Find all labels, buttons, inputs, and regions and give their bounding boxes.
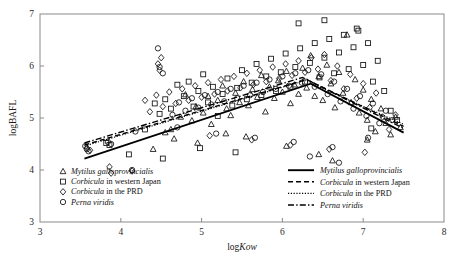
regression-line-square xyxy=(84,80,403,146)
data-point-diamond xyxy=(231,73,237,79)
data-point-circle xyxy=(155,46,160,51)
data-point-diamond xyxy=(322,51,328,57)
data-points-layer xyxy=(83,18,404,177)
data-point-square xyxy=(269,56,274,61)
line-legend: Mytilus galloprovincialisCorbicula in we… xyxy=(288,166,410,210)
data-point-diamond xyxy=(192,83,198,89)
data-point-triangle xyxy=(263,109,269,114)
data-point-square xyxy=(336,50,341,55)
data-point-diamond xyxy=(218,76,224,82)
data-point-circle xyxy=(307,154,312,159)
data-point-circle xyxy=(160,71,165,76)
data-point-diamond xyxy=(244,70,250,76)
data-point-square xyxy=(369,126,374,131)
data-point-diamond xyxy=(142,97,148,103)
data-point-square xyxy=(61,179,66,184)
data-point-diamond xyxy=(335,63,341,69)
data-point-diamond xyxy=(147,109,153,115)
data-point-triangle xyxy=(60,168,66,173)
data-point-triangle xyxy=(352,76,358,81)
regression-line-diamond xyxy=(84,81,403,147)
data-point-square xyxy=(283,51,288,56)
data-point-triangle xyxy=(288,100,294,105)
data-point-triangle xyxy=(332,105,338,110)
data-point-diamond xyxy=(205,79,211,85)
data-point-diamond xyxy=(154,92,160,98)
data-point-triangle xyxy=(233,90,239,95)
marker-legend-label: Corbicula in western Japan xyxy=(71,177,161,186)
data-point-square xyxy=(296,21,301,26)
data-point-diamond xyxy=(315,66,321,72)
data-point-square xyxy=(126,152,131,157)
y-tick-label: 5 xyxy=(29,113,34,123)
x-tick-label: 4 xyxy=(118,227,123,237)
data-point-square xyxy=(157,111,162,116)
marker-legend-label: Mytilus galloprovincialis xyxy=(70,167,153,176)
marker-legend-item: Mytilus galloprovincialis xyxy=(60,167,153,176)
data-point-square xyxy=(293,65,298,70)
data-point-triangle xyxy=(284,68,290,73)
marker-legend-label: Corbicula in the PRD xyxy=(71,187,143,196)
data-point-diamond xyxy=(158,54,164,60)
x-tick-label: 8 xyxy=(442,227,447,237)
marker-legend-item: Corbicula in the PRD xyxy=(60,187,142,196)
data-point-diamond xyxy=(60,189,66,195)
line-legend-label: Mytilus galloprovincialis xyxy=(319,166,402,175)
x-tick-label: 3 xyxy=(38,227,43,237)
data-point-diamond xyxy=(362,149,368,155)
data-point-triangle xyxy=(215,97,221,102)
data-point-diamond xyxy=(348,71,354,77)
line-legend-item: Corbicula in the PRD xyxy=(288,189,392,198)
line-legend-label: Corbicula in western Japan xyxy=(320,178,410,187)
data-point-triangle xyxy=(223,131,229,136)
data-point-circle xyxy=(336,160,341,165)
data-point-square xyxy=(233,150,238,155)
data-point-triangle xyxy=(183,92,189,97)
data-point-diamond xyxy=(283,61,289,67)
x-axis-title: logKow xyxy=(227,242,257,252)
data-point-triangle xyxy=(312,93,318,98)
data-point-square xyxy=(163,97,168,102)
data-point-triangle xyxy=(316,151,322,156)
data-point-triangle xyxy=(220,83,226,88)
data-point-square xyxy=(225,76,230,81)
data-point-square xyxy=(382,88,387,93)
data-point-triangle xyxy=(208,121,214,126)
line-legend-label: Corbicula in the PRD xyxy=(320,189,392,198)
data-point-square xyxy=(249,80,254,85)
data-point-diamond xyxy=(360,80,366,86)
chart-figure: 34567834567 Mytilus galloprovincialisCor… xyxy=(0,0,465,267)
data-point-diamond xyxy=(160,103,166,109)
data-point-square xyxy=(210,84,215,89)
data-point-diamond xyxy=(157,67,163,73)
data-point-square xyxy=(230,103,235,108)
marker-legend: Mytilus galloprovincialisCorbicula in we… xyxy=(60,167,161,207)
data-point-diamond xyxy=(296,58,302,64)
data-point-triangle xyxy=(171,136,177,141)
data-point-square xyxy=(322,18,327,23)
y-tick-label: 7 xyxy=(29,9,34,19)
data-point-square xyxy=(388,108,393,113)
data-point-square xyxy=(201,72,206,77)
regression-lines-layer xyxy=(84,77,403,158)
data-point-diamond xyxy=(173,100,179,106)
data-point-square xyxy=(366,41,371,46)
data-point-diamond xyxy=(373,90,379,96)
data-point-circle xyxy=(291,139,296,144)
y-axis-title: logBAFL xyxy=(8,100,18,137)
series-points-square xyxy=(104,18,400,161)
scatter-plot: 34567834567 Mytilus galloprovincialisCor… xyxy=(0,0,465,267)
data-point-square xyxy=(327,36,332,41)
data-point-triangle xyxy=(228,112,234,117)
data-point-square xyxy=(220,92,225,97)
marker-legend-item: Perna viridis xyxy=(60,198,114,207)
data-point-triangle xyxy=(360,87,366,92)
data-point-triangle xyxy=(320,97,326,102)
data-point-triangle xyxy=(243,134,249,139)
data-point-circle xyxy=(60,199,65,204)
data-point-square xyxy=(198,146,203,151)
data-point-square xyxy=(152,101,157,106)
data-point-square xyxy=(240,68,245,73)
data-point-square xyxy=(186,79,191,84)
y-tick-label: 6 xyxy=(29,61,34,71)
